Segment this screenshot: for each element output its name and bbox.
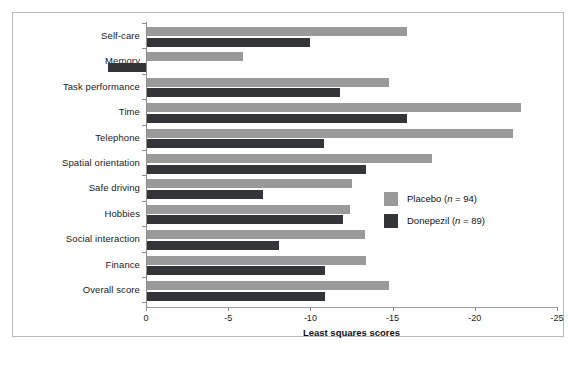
category-label: Safe driving <box>20 182 140 193</box>
category-label: Time <box>20 106 140 117</box>
bar-placebo-task-performance <box>146 78 389 87</box>
legend-label: Placebo (n = 94) <box>407 193 477 204</box>
legend-label: Donepezil (n = 89) <box>407 215 485 226</box>
bar-donepezil-memory <box>108 63 146 72</box>
bar-placebo-time <box>146 103 521 112</box>
bar-placebo-memory <box>146 52 243 61</box>
x-axis-tick-label: -15 <box>373 313 413 323</box>
bar-donepezil-spatial-orientation <box>146 165 366 174</box>
category-label: Social interaction <box>20 233 140 244</box>
bar-donepezil-safe-driving <box>146 190 263 199</box>
category-label: Spatial orientation <box>20 157 140 168</box>
x-axis-tick <box>146 307 147 311</box>
legend-swatch-icon <box>384 192 398 206</box>
legend-swatch-icon <box>384 214 398 228</box>
x-axis-tick-label: 0 <box>126 313 166 323</box>
category-label: Telephone <box>20 132 140 143</box>
bar-placebo-finance <box>146 256 366 265</box>
x-axis-tick <box>393 307 394 311</box>
x-axis-tick <box>475 307 476 311</box>
category-label: Finance <box>20 259 140 270</box>
x-axis-tick <box>228 307 229 311</box>
figure: Self-careMemoryTask performanceTimeTelep… <box>0 0 580 365</box>
bar-placebo-telephone <box>146 129 513 138</box>
x-axis-line <box>146 307 557 308</box>
bar-donepezil-social-interaction <box>146 241 279 250</box>
bar-donepezil-hobbies <box>146 215 343 224</box>
bar-donepezil-telephone <box>146 139 324 148</box>
x-axis-tick <box>557 307 558 311</box>
plot-area: Self-careMemoryTask performanceTimeTelep… <box>0 0 580 365</box>
bar-placebo-safe-driving <box>146 179 352 188</box>
bar-placebo-overall-score <box>146 281 389 290</box>
bar-placebo-spatial-orientation <box>146 154 432 163</box>
x-axis-tick <box>310 307 311 311</box>
bar-donepezil-self-care <box>146 38 310 47</box>
x-axis-tick-label: -10 <box>290 313 330 323</box>
bar-placebo-self-care <box>146 27 407 36</box>
bar-donepezil-task-performance <box>146 88 340 97</box>
bar-placebo-social-interaction <box>146 230 365 239</box>
bar-placebo-hobbies <box>146 205 350 214</box>
x-axis-tick-label: -25 <box>537 313 577 323</box>
category-label: Hobbies <box>20 208 140 219</box>
bar-donepezil-overall-score <box>146 292 325 301</box>
category-label: Overall score <box>20 284 140 295</box>
category-label: Self-care <box>20 30 140 41</box>
category-label: Task performance <box>20 81 140 92</box>
bar-donepezil-finance <box>146 266 325 275</box>
bar-donepezil-time <box>146 114 407 123</box>
x-axis-label: Least squares scores <box>252 327 452 338</box>
zero-axis-line <box>146 22 147 307</box>
x-axis-tick-label: -20 <box>455 313 495 323</box>
x-axis-tick-label: -5 <box>208 313 248 323</box>
